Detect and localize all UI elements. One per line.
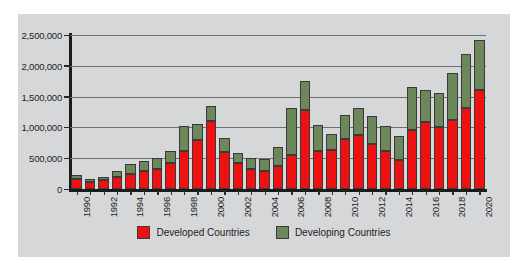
bar-group[interactable] <box>474 40 484 189</box>
bar-group[interactable] <box>259 159 269 189</box>
y-axis-tick-mark <box>64 96 69 98</box>
bar-segment-developed <box>233 163 243 189</box>
y-axis-tick-label: 1,500,000 <box>22 91 62 102</box>
bar-group[interactable] <box>246 158 256 189</box>
bar-segment-developing <box>367 116 377 144</box>
bar-group[interactable] <box>112 171 122 189</box>
bar-group[interactable] <box>273 147 283 190</box>
bar-group[interactable] <box>71 175 81 189</box>
bar-group[interactable] <box>179 126 189 189</box>
bar-segment-developing <box>313 125 323 151</box>
x-axis-tick-label: 2002 <box>242 197 253 217</box>
bar-segment-developed <box>340 139 350 189</box>
y-axis-tick-mark <box>64 158 69 160</box>
x-axis-tick-label: 1992 <box>108 197 119 217</box>
bar-group[interactable] <box>367 116 377 189</box>
bar-segment-developing <box>259 159 269 171</box>
bar-group[interactable] <box>447 73 457 189</box>
bar-group[interactable] <box>219 138 229 189</box>
x-axis-tick-label: 2004 <box>269 197 280 217</box>
bar-group[interactable] <box>394 136 404 189</box>
x-axis-tick-label: 1990 <box>81 197 92 217</box>
bar-segment-developed <box>139 171 149 189</box>
bar-segment-developed <box>219 152 229 189</box>
bar-segment-developing <box>165 151 175 163</box>
x-axis-tick-mark <box>77 191 78 195</box>
bar-segment-developed <box>98 180 108 189</box>
gridline <box>70 66 486 67</box>
bar-group[interactable] <box>326 134 336 189</box>
y-axis-tick-label: 0 <box>57 184 62 195</box>
x-axis-tick-label: 2016 <box>430 197 441 217</box>
x-axis-tick-mark <box>439 191 440 195</box>
bar-segment-developed <box>326 150 336 189</box>
x-axis-tick-mark <box>399 191 400 195</box>
legend-swatch-icon <box>137 226 150 239</box>
legend-entry[interactable]: Developed Countries <box>137 226 249 239</box>
x-axis-tick-label: 2014 <box>403 197 414 217</box>
x-axis-tick-label: 1994 <box>134 197 145 217</box>
bar-group[interactable] <box>192 124 202 189</box>
x-axis-tick-mark <box>238 191 239 195</box>
bar-segment-developed <box>246 169 256 189</box>
plot-area <box>70 35 486 189</box>
bar-group[interactable] <box>313 125 323 189</box>
bar-segment-developing <box>420 90 430 123</box>
gridline <box>70 35 486 36</box>
bar-segment-developed <box>434 127 444 189</box>
bar-segment-developing <box>125 164 135 173</box>
bar-segment-developed <box>407 130 417 189</box>
bar-segment-developed <box>367 144 377 189</box>
bar-segment-developed <box>165 163 175 189</box>
x-axis-tick-mark <box>117 191 118 195</box>
bar-group[interactable] <box>420 90 430 189</box>
x-axis-tick-mark <box>184 191 185 195</box>
bar-segment-developed <box>259 171 269 189</box>
bar-segment-developed <box>353 135 363 189</box>
x-axis-tick-label: 2008 <box>322 197 333 217</box>
bar-segment-developed <box>85 182 95 189</box>
bar-group[interactable] <box>286 108 296 189</box>
bar-group[interactable] <box>353 108 363 189</box>
bar-segment-developed <box>447 120 457 189</box>
x-axis-tick-mark <box>385 191 386 195</box>
bar-group[interactable] <box>407 87 417 189</box>
bar-segment-developing <box>152 158 162 169</box>
bar-segment-developed <box>206 121 216 189</box>
bar-group[interactable] <box>300 81 310 189</box>
x-axis-tick-mark <box>157 191 158 195</box>
bar-group[interactable] <box>434 93 444 189</box>
bar-group[interactable] <box>165 151 175 189</box>
x-axis-tick-mark <box>197 191 198 195</box>
x-axis-tick-label: 2000 <box>215 197 226 217</box>
bar-segment-developed <box>380 151 390 189</box>
bar-segment-developing <box>380 126 390 152</box>
x-axis-tick-mark <box>466 191 467 195</box>
bar-group[interactable] <box>98 177 108 189</box>
bar-segment-developing <box>286 108 296 155</box>
bar-group[interactable] <box>85 179 95 189</box>
bar-group[interactable] <box>340 115 350 189</box>
legend-entry[interactable]: Developing Countries <box>276 226 391 239</box>
y-axis-tick-label: 1,000,000 <box>22 122 62 133</box>
bar-group[interactable] <box>125 164 135 189</box>
bar-group[interactable] <box>461 53 471 189</box>
x-axis-tick-mark <box>144 191 145 195</box>
bar-segment-developed <box>313 151 323 189</box>
bar-group[interactable] <box>233 153 243 189</box>
x-axis-tick-mark <box>224 191 225 195</box>
bar-group[interactable] <box>152 158 162 189</box>
bar-group[interactable] <box>380 126 390 189</box>
bar-segment-developing <box>447 73 457 120</box>
x-axis-tick-label: 1998 <box>188 197 199 217</box>
bar-segment-developing <box>179 126 189 151</box>
bar-segment-developed <box>125 174 135 189</box>
legend-swatch-icon <box>276 226 289 239</box>
chart-legend: Developed CountriesDeveloping Countries <box>18 226 510 239</box>
x-axis-tick-mark <box>305 191 306 195</box>
bar-segment-developing <box>192 124 202 140</box>
bar-group[interactable] <box>139 161 149 189</box>
bar-group[interactable] <box>206 106 216 189</box>
x-axis-tick-mark <box>318 191 319 195</box>
legend-label: Developed Countries <box>156 227 249 238</box>
